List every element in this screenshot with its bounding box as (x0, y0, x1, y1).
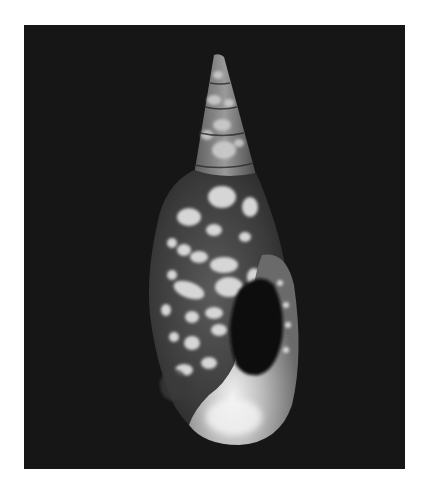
shell-spire (194, 54, 256, 179)
photo-panel (24, 25, 405, 469)
shell-illustration (24, 25, 405, 469)
shell-highlight (206, 399, 262, 435)
